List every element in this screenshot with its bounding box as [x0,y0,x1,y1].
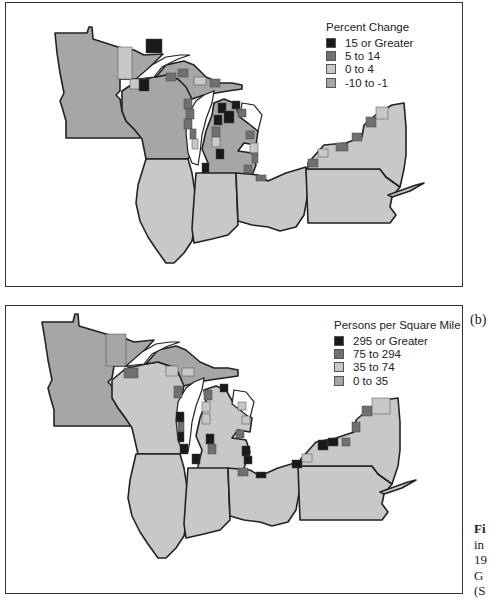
legend-item: 5 to 14 [326,49,413,62]
caption-line: (S [474,583,490,599]
caption-line: Fi [474,521,486,536]
legend-title: Persons per Square Mile [334,319,461,331]
state-illinois [128,454,188,558]
caption-line: G [474,568,490,584]
legend-item: 35 to 74 [334,361,461,374]
legend-swatch [334,376,344,386]
legend-item: 15 or Greater [326,36,413,49]
map-panel-population-density: Persons per Square Mile 295 or Greater 7… [5,305,463,594]
state-indiana [192,173,238,243]
legend-label: 35 to 74 [353,361,395,373]
legend-label: 5 to 14 [345,50,380,62]
legend-swatch [334,336,344,346]
state-indiana [184,468,230,538]
legend-swatch [326,64,336,74]
legend-label: -10 to -1 [345,77,388,89]
legend-title: Percent Change [326,21,413,33]
legend-label: 0 to 35 [353,375,388,387]
legend-item: 0 to 4 [326,63,413,76]
state-illinois [136,159,196,263]
legend-item: -10 to -1 [326,76,413,89]
legend-persons-per-square-mile: Persons per Square Mile 295 or Greater 7… [334,319,461,387]
legend-swatch [326,38,336,48]
figure-caption-fragment: Fi in 19 G (S [474,521,490,599]
legend-label: 15 or Greater [345,37,413,49]
legend-item: 75 to 294 [334,347,461,360]
legend-swatch [326,78,336,88]
caption-line: in [474,537,490,553]
legend-swatch [334,349,344,359]
legend-percent-change: Percent Change 15 or Greater 5 to 14 0 t… [326,21,413,89]
legend-item: 295 or Greater [334,334,461,347]
caption-line: 19 [474,552,490,568]
state-ohio [236,167,308,231]
legend-label: 295 or Greater [353,335,428,347]
legend-item: 0 to 35 [334,374,461,387]
legend-swatch [326,51,336,61]
legend-label: 0 to 4 [345,63,374,75]
panel-b-label: (b) [470,312,486,328]
legend-swatch [334,362,344,372]
legend-label: 75 to 294 [353,348,401,360]
map-panel-percent-change: Percent Change 15 or Greater 5 to 14 0 t… [5,2,463,287]
